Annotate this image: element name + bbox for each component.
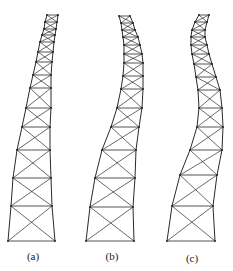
tower-a-truss <box>7 14 59 242</box>
truss-towers-canvas <box>0 0 233 271</box>
panel-label-a: (a) <box>27 250 39 262</box>
truss-tower-figure: (a) (b) (c) <box>0 0 233 271</box>
panel-label-c: (c) <box>186 252 198 264</box>
tower-b-truss <box>85 15 144 242</box>
panel-label-b: (b) <box>106 250 119 262</box>
tower-c-truss <box>166 14 224 242</box>
